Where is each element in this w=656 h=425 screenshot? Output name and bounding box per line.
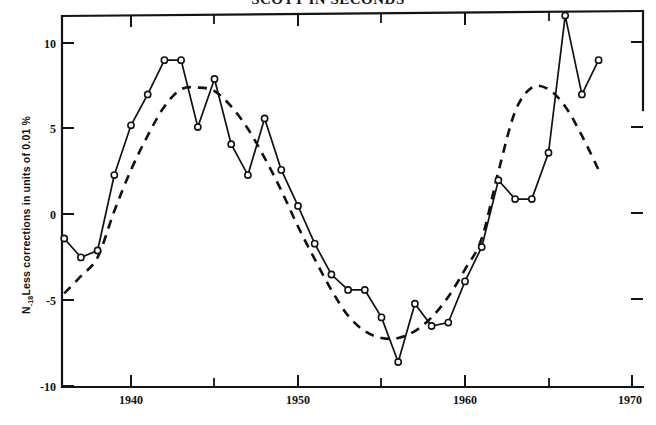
x-tick-label-1960: 1960 [453, 393, 477, 407]
data-point-marker [128, 122, 134, 128]
data-point-marker [161, 57, 167, 63]
observed-data-line [64, 16, 598, 362]
y-tick-label-neg10: -10 [40, 380, 56, 394]
data-point-marker [78, 254, 84, 260]
y-tick-label-0: 0 [50, 208, 56, 222]
data-point-marker [412, 301, 418, 307]
data-point-marker [378, 314, 384, 320]
svg-text:N-18Less corrections in units: N-18Less corrections in units of 0.01 % [20, 115, 34, 314]
data-point-marker [262, 115, 268, 121]
y-axis-title: N-18Less corrections in units of 0.01 % [20, 115, 34, 314]
data-point-marker [512, 196, 518, 202]
data-point-marker [312, 241, 318, 247]
y-axis-title-subscript: -18 [27, 296, 34, 307]
data-point-marker [429, 323, 435, 329]
data-point-marker [579, 91, 585, 97]
data-point-marker [245, 172, 251, 178]
data-point-marker [211, 76, 217, 82]
y-tick-label-10: 10 [44, 37, 56, 51]
y-tick-label-5: 5 [50, 122, 56, 136]
data-point-marker [562, 12, 568, 18]
x-tick-label-1940: 1940 [119, 393, 143, 407]
figure-container: SCOTT IN SECONDS 10 5 0 -5 -10 [0, 0, 656, 425]
y-tick-label-neg5: -5 [46, 294, 56, 308]
observed-data-markers [61, 12, 602, 365]
data-point-marker [278, 167, 284, 173]
data-point-marker [545, 150, 551, 156]
data-point-marker [462, 278, 468, 284]
x-axis-ticks [131, 12, 632, 387]
data-point-marker [178, 57, 184, 63]
data-point-marker [345, 287, 351, 293]
y-axis-tick-labels: 10 5 0 -5 -10 [40, 37, 56, 394]
y-axis-title-main: Less corrections in units of 0.01 % [20, 115, 32, 295]
smoothed-fit-curve [64, 86, 598, 339]
x-tick-label-1950: 1950 [286, 393, 310, 407]
data-point-marker [362, 287, 368, 293]
data-point-marker [228, 141, 234, 147]
data-point-marker [328, 271, 334, 277]
x-axis-tick-labels: 1940 1950 1960 1970 [119, 393, 642, 407]
data-point-marker [295, 203, 301, 209]
axis-top [62, 11, 643, 16]
data-point-marker [145, 91, 151, 97]
data-point-marker [529, 196, 535, 202]
y-axis-title-prefix: N [20, 306, 32, 314]
data-point-marker [479, 244, 485, 250]
data-point-marker [495, 177, 501, 183]
data-point-marker [195, 124, 201, 130]
data-point-marker [445, 319, 451, 325]
data-point-marker [395, 359, 401, 365]
data-point-marker [61, 235, 67, 241]
axis-frame [62, 11, 643, 387]
data-point-marker [111, 172, 117, 178]
data-point-marker [596, 57, 602, 63]
chart-plot-area: 10 5 0 -5 -10 1940 1950 1960 [0, 0, 656, 425]
x-tick-label-1970: 1970 [618, 393, 642, 407]
data-point-marker [95, 247, 101, 253]
